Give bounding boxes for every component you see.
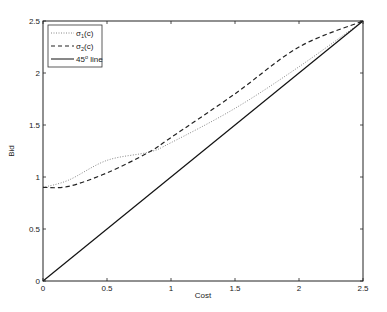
legend-label-45-line: 45o line: [76, 54, 103, 64]
legend-label-sigma1: σ1(c): [76, 29, 94, 39]
chart: 00.511.522.500.511.522.5 Cost Bid σ1(c) …: [0, 0, 387, 312]
y-tick-label: 0.5: [29, 225, 41, 234]
x-tick-label: 2: [297, 284, 302, 293]
y-tick-label: 1: [36, 173, 41, 182]
y-tick-label: 2: [36, 69, 41, 78]
x-tick-label: 2.5: [357, 284, 369, 293]
x-tick-label: 0.5: [101, 284, 113, 293]
x-axis-label: Cost: [195, 291, 212, 300]
legend-label-sigma2: σ2(c): [76, 42, 94, 52]
x-tick-label: 0: [41, 284, 46, 293]
y-tick-label: 1.5: [29, 121, 41, 130]
y-axis-label: Bid: [7, 145, 16, 157]
x-tick-label: 1: [169, 284, 174, 293]
legend: σ1(c) σ2(c) 45o line: [48, 25, 103, 67]
y-tick-label: 2.5: [29, 17, 41, 26]
x-tick-label: 1.5: [229, 284, 241, 293]
y-tick-label: 0: [36, 277, 41, 286]
